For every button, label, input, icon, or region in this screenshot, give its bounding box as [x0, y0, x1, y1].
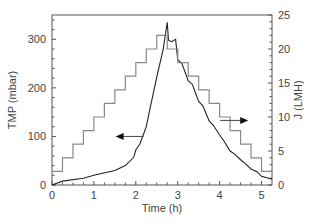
plot-frame	[52, 15, 272, 185]
x-tick-label: 3	[175, 189, 181, 201]
y2-tick-label: 25	[278, 9, 290, 21]
y2-tick-label: 5	[278, 145, 284, 157]
arrowhead-right-icon	[240, 117, 248, 124]
arrowhead-left-icon	[116, 133, 124, 140]
x-axis-label: Time (h)	[142, 202, 183, 214]
tmp-line	[52, 22, 272, 185]
y-tick-label: 200	[28, 82, 46, 94]
x-tick-label: 1	[91, 189, 97, 201]
y2-tick-label: 10	[278, 111, 290, 123]
x-tick-label: 0	[49, 189, 55, 201]
y-tick-label: 300	[28, 33, 46, 45]
y2-axis-label: J (LMH)	[292, 80, 304, 119]
x-tick-label: 4	[217, 189, 223, 201]
y2-tick-label: 0	[278, 179, 284, 191]
y2-tick-label: 15	[278, 77, 290, 89]
x-tick-label: 5	[258, 189, 264, 201]
x-tick-label: 2	[133, 189, 139, 201]
y2-tick-label: 20	[278, 43, 290, 55]
y-axis-label: TMP (mbar)	[6, 71, 18, 129]
y-tick-label: 0	[40, 179, 46, 191]
y-tick-label: 100	[28, 130, 46, 142]
chart: 01234501002003000510152025Time (h)TMP (m…	[0, 0, 318, 223]
